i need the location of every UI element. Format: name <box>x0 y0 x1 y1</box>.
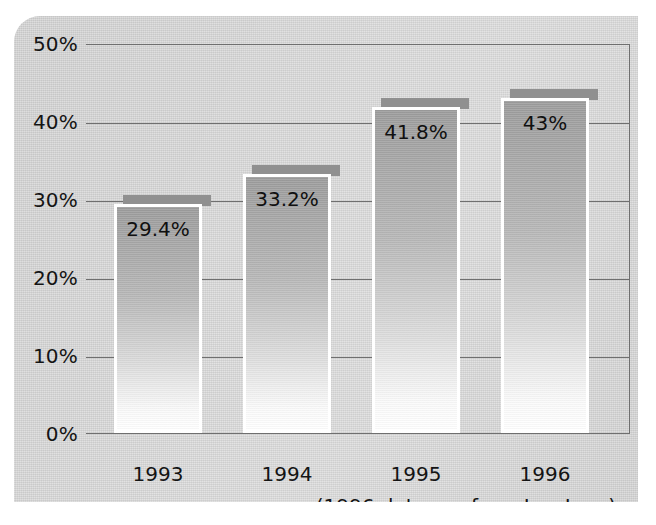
bar-1994[interactable]: 33.2% <box>243 165 331 433</box>
y-tick-label: 20% <box>14 266 78 290</box>
y-tick-label: 10% <box>14 344 78 368</box>
chart-panel: 50% 40% 30% 20% 10% 0% 29.4% 33.2% <box>14 16 638 502</box>
bar-body: 43% <box>501 98 589 433</box>
bar-1995[interactable]: 41.8% <box>372 98 460 433</box>
y-axis: 50% 40% 30% 20% 10% 0% <box>14 44 78 434</box>
bar-1993[interactable]: 29.4% <box>114 195 202 433</box>
bar-body: 33.2% <box>243 174 331 433</box>
x-tick-label-1995: 1995 <box>372 462 460 486</box>
plot-area: 29.4% 33.2% 41.8% 43% <box>86 44 630 434</box>
y-tick-label: 50% <box>14 32 78 56</box>
bar-1996[interactable]: 43% <box>501 89 589 433</box>
chart-footnote: (1996 data are from Jan–June) <box>316 494 616 502</box>
bar-fill <box>375 110 457 430</box>
y-tick-label: 40% <box>14 110 78 134</box>
y-tick-label: 0% <box>14 422 78 446</box>
bar-body: 41.8% <box>372 107 460 433</box>
x-tick-label-1996: 1996 <box>501 462 589 486</box>
bar-fill <box>246 177 328 430</box>
bar-value-label: 33.2% <box>246 187 328 211</box>
bar-body: 29.4% <box>114 204 202 433</box>
bar-value-label: 41.8% <box>375 120 457 144</box>
bar-fill <box>504 101 586 430</box>
y-tick-label: 30% <box>14 188 78 212</box>
bar-value-label: 43% <box>504 111 586 135</box>
bar-value-label: 29.4% <box>117 217 199 241</box>
x-tick-label-1993: 1993 <box>114 462 202 486</box>
x-tick-label-1994: 1994 <box>243 462 331 486</box>
